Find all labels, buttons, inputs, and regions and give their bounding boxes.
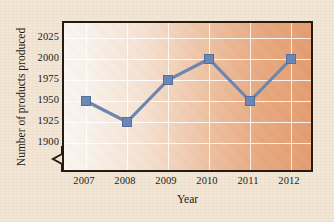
x-axis-title: Year [62,193,313,205]
data-point-2009 [164,76,173,85]
y-tick-1975: 1975 [38,74,59,85]
x-tick-2008: 2008 [114,175,135,186]
data-point-2007 [82,97,91,106]
x-tick-2009: 2009 [155,175,176,186]
x-tick-2012: 2012 [278,175,299,186]
data-point-2011 [246,97,255,106]
plot-area [62,21,313,172]
y-axis-title: Number of products produced [15,27,27,167]
data-point-2012 [287,55,296,64]
y-axis-break-icon [50,146,72,172]
y-tick-2025: 2025 [38,32,59,43]
data-point-2010 [205,55,214,64]
data-point-2008 [123,118,132,127]
x-tick-2007: 2007 [73,175,94,186]
series-polyline [86,59,291,122]
y-axis-tick-labels: 2025 2000 1975 1950 1925 1900 [0,0,59,222]
x-tick-2011: 2011 [237,175,258,186]
data-series-line [64,23,311,170]
x-tick-2010: 2010 [196,175,217,186]
y-tick-2000: 2000 [38,53,59,64]
y-tick-1925: 1925 [38,116,59,127]
y-tick-1950: 1950 [38,95,59,106]
line-chart-figure: 2025 2000 1975 1950 1925 1900 2007 2008 … [0,0,334,222]
